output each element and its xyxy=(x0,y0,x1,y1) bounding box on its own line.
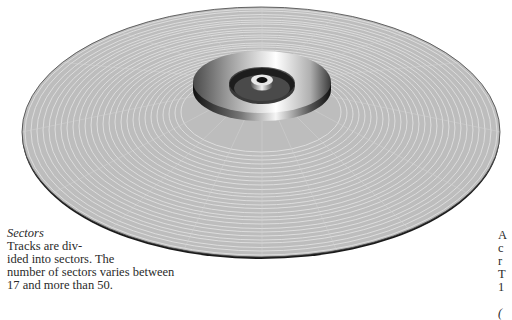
right-caption-cut-off: A c r T 1 ( xyxy=(498,229,512,320)
right-caption-line: ( xyxy=(498,307,512,320)
sectors-caption: Sectors Tracks are div- ided into sector… xyxy=(7,227,207,292)
right-caption-line: 1 xyxy=(498,281,512,294)
hub xyxy=(193,51,331,121)
sectors-caption-line: 17 and more than 50. xyxy=(7,279,207,292)
spindle xyxy=(251,75,273,91)
